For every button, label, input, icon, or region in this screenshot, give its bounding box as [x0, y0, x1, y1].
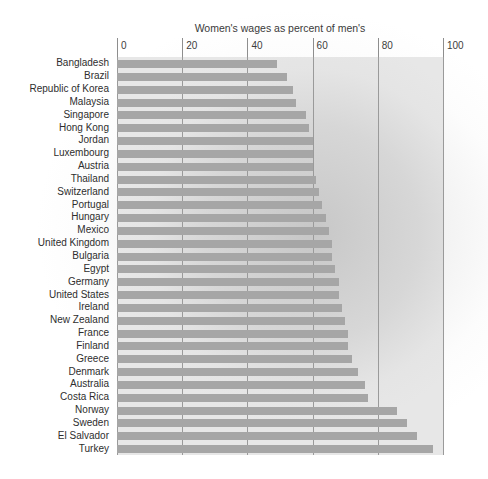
bar-row — [117, 147, 443, 160]
bar — [117, 99, 296, 107]
bar-row — [117, 378, 443, 391]
bar-row — [117, 416, 443, 429]
x-axis-tick-label: 80 — [382, 40, 393, 51]
bar-row — [117, 108, 443, 121]
category-label: Australia — [70, 378, 109, 389]
category-label: Mexico — [77, 224, 109, 235]
bar — [117, 445, 433, 453]
category-label: Sweden — [73, 417, 109, 428]
bar-row — [117, 198, 443, 211]
bar — [117, 278, 339, 286]
bar — [117, 407, 397, 415]
x-axis-tick-label: 60 — [317, 40, 328, 51]
bar-row — [117, 185, 443, 198]
bar-row — [117, 211, 443, 224]
x-axis-tick-label: 20 — [186, 40, 197, 51]
tick-mark — [247, 38, 248, 57]
category-label: Bangladesh — [56, 57, 109, 68]
bar — [117, 342, 348, 350]
gridline — [443, 57, 444, 455]
bar-row — [117, 365, 443, 378]
bar — [117, 368, 358, 376]
bar-row — [117, 96, 443, 109]
category-label: United States — [49, 289, 109, 300]
category-label: Hungary — [71, 211, 109, 222]
tick-mark — [117, 38, 118, 57]
bar — [117, 176, 316, 184]
category-label: Brazil — [84, 70, 109, 81]
bar — [117, 240, 332, 248]
category-label: United Kingdom — [38, 237, 109, 248]
bar — [117, 150, 313, 158]
bar-row — [117, 404, 443, 417]
category-label: Turkey — [79, 443, 109, 454]
bar-row — [117, 262, 443, 275]
bar — [117, 432, 417, 440]
bar — [117, 188, 319, 196]
bar-row — [117, 134, 443, 147]
bar-row — [117, 301, 443, 314]
tick-mark — [443, 38, 444, 57]
bar — [117, 419, 407, 427]
chart-title: Women's wages as percent of men's — [117, 22, 443, 34]
bar-row — [117, 237, 443, 250]
bar — [117, 60, 277, 68]
category-label: Germany — [68, 276, 109, 287]
bar — [117, 86, 293, 94]
category-label: Denmark — [68, 366, 109, 377]
x-axis-tick-label: 0 — [121, 40, 127, 51]
bar-row — [117, 442, 443, 455]
category-label: Luxembourg — [53, 147, 109, 158]
bar — [117, 253, 332, 261]
tick-mark — [182, 38, 183, 57]
bar — [117, 137, 313, 145]
bar — [117, 73, 287, 81]
category-label: Hong Kong — [59, 122, 109, 133]
bar-row — [117, 275, 443, 288]
bar — [117, 304, 342, 312]
bar-row — [117, 57, 443, 70]
chart-figure: Women's wages as percent of men's 020406… — [0, 0, 488, 479]
x-axis: 020406080100 — [117, 38, 447, 58]
bar-row — [117, 121, 443, 134]
bar — [117, 265, 335, 273]
y-axis-labels: BangladeshBrazilRepublic of KoreaMalaysi… — [0, 57, 113, 455]
category-label: New Zealand — [50, 314, 109, 325]
bar-row — [117, 314, 443, 327]
bar-row — [117, 224, 443, 237]
bar — [117, 111, 306, 119]
bar — [117, 355, 352, 363]
bar — [117, 330, 348, 338]
tick-mark — [313, 38, 314, 57]
category-label: Republic of Korea — [30, 83, 110, 94]
tick-mark — [378, 38, 379, 57]
category-label: Malaysia — [70, 96, 109, 107]
bar-row — [117, 250, 443, 263]
bar-row — [117, 70, 443, 83]
category-label: Bulgaria — [72, 250, 109, 261]
category-label: Greece — [76, 353, 109, 364]
bar — [117, 124, 309, 132]
bar — [117, 227, 329, 235]
bar-row — [117, 352, 443, 365]
bar — [117, 317, 345, 325]
bar-row — [117, 288, 443, 301]
bar — [117, 214, 326, 222]
category-label: Finland — [76, 340, 109, 351]
category-label: Portugal — [72, 199, 109, 210]
bar-row — [117, 160, 443, 173]
category-label: Austria — [78, 160, 109, 171]
bar-row — [117, 339, 443, 352]
bar — [117, 394, 368, 402]
bar — [117, 163, 313, 171]
category-label: Singapore — [63, 109, 109, 120]
bar-row — [117, 327, 443, 340]
category-label: Thailand — [71, 173, 109, 184]
category-label: Ireland — [78, 301, 109, 312]
x-axis-tick-label: 40 — [251, 40, 262, 51]
bar-row — [117, 429, 443, 442]
category-label: Costa Rica — [60, 391, 109, 402]
bar — [117, 291, 339, 299]
category-label: El Salvador — [58, 430, 109, 441]
category-label: Norway — [75, 404, 109, 415]
